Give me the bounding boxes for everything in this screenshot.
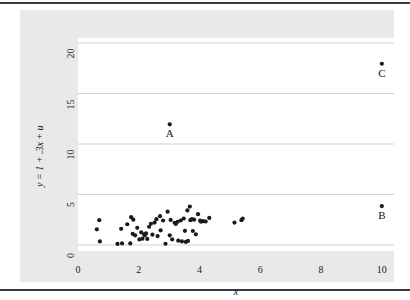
data-point <box>207 216 211 220</box>
data-point <box>170 237 174 241</box>
data-point <box>241 216 245 220</box>
point-label-a: A <box>160 127 180 139</box>
data-point <box>176 239 180 243</box>
y-tick-label: 5 <box>65 194 76 216</box>
top-divider-rule <box>0 2 410 4</box>
data-point <box>156 234 160 238</box>
data-point <box>98 239 102 243</box>
data-point <box>186 239 190 243</box>
scatter-plot-svg <box>78 38 394 251</box>
x-tick-label: 8 <box>309 264 333 275</box>
data-point <box>144 231 148 235</box>
data-point <box>145 237 149 241</box>
data-point <box>380 204 384 208</box>
data-point <box>133 233 137 237</box>
data-point <box>380 62 384 66</box>
data-point <box>232 220 236 224</box>
data-point <box>191 229 195 233</box>
data-point <box>149 222 153 226</box>
data-point <box>159 228 163 232</box>
data-point <box>95 227 99 231</box>
plot-area <box>78 38 394 251</box>
data-point <box>135 226 139 230</box>
data-point <box>192 218 196 222</box>
data-point <box>168 122 172 126</box>
data-point <box>185 208 189 212</box>
x-tick-label: 0 <box>66 264 90 275</box>
data-point <box>119 227 123 231</box>
data-point <box>115 242 119 246</box>
data-point <box>154 217 158 221</box>
point-label-c: C <box>372 67 392 79</box>
y-tick-label: 15 <box>65 93 76 115</box>
data-point <box>180 239 184 243</box>
chart-screenshot: y = 1 + .3x + u x 051015200246810ABC <box>0 0 410 300</box>
data-point <box>166 210 170 214</box>
data-point <box>163 242 167 246</box>
data-point <box>168 233 172 237</box>
data-point <box>182 216 186 220</box>
data-point <box>183 229 187 233</box>
data-point <box>120 241 124 245</box>
data-point <box>150 233 154 237</box>
data-point <box>97 218 101 222</box>
data-point <box>188 204 192 208</box>
graph-region: y = 1 + .3x + u x 051015200246810ABC <box>20 10 394 282</box>
x-tick-label: 6 <box>248 264 272 275</box>
bottom-divider-rule <box>0 289 410 291</box>
y-axis-title: y = 1 + .3x + u <box>34 125 45 187</box>
y-tick-label: 20 <box>65 43 76 65</box>
data-point <box>194 232 198 236</box>
y-tick-label: 10 <box>65 143 76 165</box>
x-axis-title: x <box>206 285 266 297</box>
data-point <box>204 219 208 223</box>
x-tick-label: 4 <box>188 264 212 275</box>
point-label-b: B <box>372 209 392 221</box>
data-point <box>196 212 200 216</box>
x-tick-label: 2 <box>127 264 151 275</box>
data-point <box>131 218 135 222</box>
data-point <box>125 222 129 226</box>
data-point <box>161 218 165 222</box>
data-point <box>158 214 162 218</box>
x-tick-label: 10 <box>370 264 394 275</box>
data-point <box>128 241 132 245</box>
data-point <box>169 218 173 222</box>
